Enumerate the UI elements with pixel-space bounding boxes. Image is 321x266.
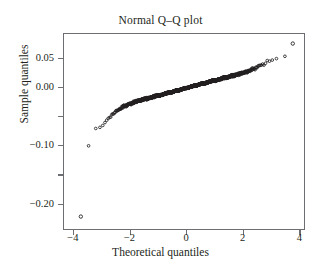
x-axis-title: Theoretical quantiles [0,246,321,258]
y-tick-label: 0.00 [0,82,54,93]
data-point [284,55,287,58]
data-point [271,59,274,62]
x-tick-label: −2 [115,232,145,243]
plot-area [63,33,305,230]
data-point [94,127,97,130]
data-point [87,144,90,147]
data-point [99,126,102,129]
y-tick-label: −0.10 [0,140,54,151]
data-point [275,57,278,60]
lower-extreme-outlier [79,215,82,218]
scatter-points-layer [64,34,304,229]
x-tick-label: 4 [284,232,314,243]
x-tick-label: 2 [228,232,258,243]
data-point [268,60,271,63]
y-tick-label: 0.05 [0,53,54,64]
data-point [264,62,267,65]
x-tick-label: 0 [171,232,201,243]
data-point [101,124,104,127]
normal-qq-plot-figure: Normal Q–Q plot Sample quantiles 0.050.0… [0,0,321,266]
y-tick-label: −0.20 [0,199,54,210]
upper-extreme-outlier [291,42,294,45]
chart-title: Normal Q–Q plot [0,14,321,26]
x-tick-label: −4 [58,232,88,243]
